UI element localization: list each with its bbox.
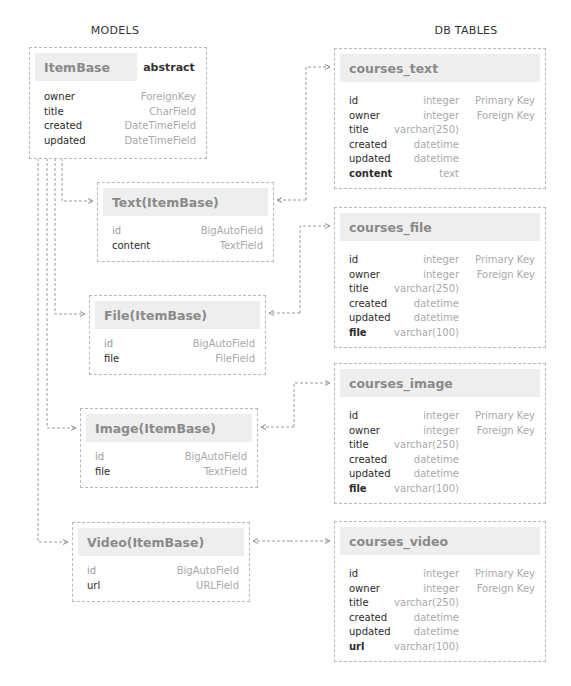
table-title: courses_text — [340, 61, 438, 76]
model-header: Text(ItemBase) — [103, 188, 268, 216]
column-row: titlevarchar(250) — [349, 282, 535, 297]
column-row: titlevarchar(250) — [349, 438, 535, 453]
model-itembase: ItemBase abstract ownerForeignKey titleC… — [29, 47, 207, 159]
column-row: filevarchar(100) — [349, 326, 535, 341]
table-title: courses_image — [340, 376, 453, 391]
column-row: filevarchar(100) — [349, 482, 535, 497]
column-row: ownerintegerForeign Key — [349, 424, 535, 439]
db-tables-heading: DB TABLES — [396, 24, 536, 37]
table-header: courses_text — [340, 54, 540, 82]
column-row: createddatetime — [349, 453, 535, 468]
model-title: ItemBase — [35, 60, 110, 75]
field-row: idBigAutoField — [95, 450, 247, 465]
table-title: courses_file — [340, 220, 432, 235]
model-header: Image(ItemBase) — [86, 414, 252, 442]
column-row: ownerintegerForeign Key — [349, 109, 535, 124]
field-row: idBigAutoField — [87, 564, 239, 579]
model-text: Text(ItemBase) idBigAutoField contentTex… — [97, 182, 274, 262]
column-row: idintegerPrimary Key — [349, 567, 535, 582]
model-file: File(ItemBase) idBigAutoField fileFileFi… — [89, 295, 266, 375]
column-row: updateddatetime — [349, 311, 535, 326]
model-title: Video(ItemBase) — [78, 535, 204, 550]
table-header: courses_file — [340, 213, 540, 241]
table-courses-file: courses_file idintegerPrimary Key owneri… — [334, 207, 546, 348]
table-title: courses_video — [340, 534, 448, 549]
field-row: fileTextField — [95, 465, 247, 480]
column-row: urlvarchar(100) — [349, 640, 535, 655]
column-row: contenttext — [349, 167, 535, 182]
column-row: updateddatetime — [349, 152, 535, 167]
model-header: Video(ItemBase) — [78, 528, 244, 556]
abstract-badge: abstract — [137, 53, 201, 81]
column-row: idintegerPrimary Key — [349, 409, 535, 424]
column-row: titlevarchar(250) — [349, 596, 535, 611]
field-row: urlURLField — [87, 579, 239, 594]
column-row: idintegerPrimary Key — [349, 94, 535, 109]
column-row: idintegerPrimary Key — [349, 253, 535, 268]
model-title: Image(ItemBase) — [86, 421, 216, 436]
model-header: File(ItemBase) — [95, 301, 260, 329]
column-row: updateddatetime — [349, 625, 535, 640]
field-row: titleCharField — [44, 105, 196, 120]
table-courses-text: courses_text idintegerPrimary Key owneri… — [334, 48, 546, 189]
column-row: updateddatetime — [349, 467, 535, 482]
column-row: titlevarchar(250) — [349, 123, 535, 138]
field-row: updatedDateTimeField — [44, 134, 196, 149]
column-row: createddatetime — [349, 297, 535, 312]
field-row: fileFileField — [104, 352, 255, 367]
table-courses-video: courses_video idintegerPrimary Key owner… — [334, 521, 546, 662]
field-row: createdDateTimeField — [44, 119, 196, 134]
model-image: Image(ItemBase) idBigAutoField fileTextF… — [80, 408, 258, 488]
column-row: ownerintegerForeign Key — [349, 582, 535, 597]
table-courses-image: courses_image idintegerPrimary Key owner… — [334, 363, 546, 504]
field-row: idBigAutoField — [104, 337, 255, 352]
table-header: courses_image — [340, 369, 540, 397]
model-title: File(ItemBase) — [95, 308, 207, 323]
models-heading: MODELS — [45, 24, 185, 37]
field-row: idBigAutoField — [112, 224, 263, 239]
column-row: ownerintegerForeign Key — [349, 268, 535, 283]
model-header: ItemBase abstract — [35, 53, 201, 81]
column-row: createddatetime — [349, 138, 535, 153]
field-row: ownerForeignKey — [44, 90, 196, 105]
model-video: Video(ItemBase) idBigAutoField urlURLFie… — [72, 522, 250, 602]
column-row: createddatetime — [349, 611, 535, 626]
table-header: courses_video — [340, 527, 540, 555]
field-row: contentTextField — [112, 239, 263, 254]
model-title: Text(ItemBase) — [103, 195, 219, 210]
